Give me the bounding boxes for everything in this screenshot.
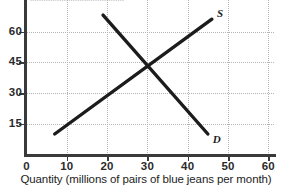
supply-demand-figure: ........................................…	[0, 0, 292, 194]
curve-label-S: S	[217, 7, 223, 19]
curve-S	[55, 19, 212, 134]
x-axis-caption: Quantity (millions of pairs of blue jean…	[0, 173, 292, 185]
curves-layer	[0, 0, 292, 194]
curve-label-D: D	[213, 133, 221, 145]
